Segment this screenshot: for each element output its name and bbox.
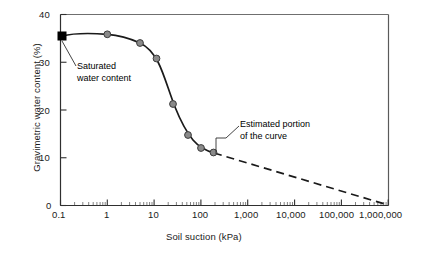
x-tick-label-1: 1 [104,209,109,220]
x-tick-label-100000: 100,000 [319,209,354,220]
estimated-portion-annotation: Estimated portion of the curve [240,119,310,142]
x-tick-label-1000: 1,000 [234,209,258,220]
y-tick-label-0: 0 [46,200,51,211]
chart-figure: 40 30 20 10 0 0.1 1 10 100 1,000 10,000 … [0,0,424,254]
x-tick-label-1000000: 1,000,000 [359,209,402,220]
saturated-water-content-marker [58,32,67,41]
saturated-water-content-annotation: Saturated water content [77,61,131,84]
y-axis-title: Gravimetric water content (%) [31,28,42,188]
x-tick-label-10000: 10,000 [276,209,306,220]
x-axis-title: Soil suction (kPa) [166,231,242,242]
x-tick-label-10: 10 [148,209,159,220]
x-axis-ticks [61,200,389,206]
plot-frame [61,15,389,206]
estimated-annotation-line2: of the curve [240,131,310,143]
estimated-leader-line [216,126,239,154]
x-tick-label-0.1: 0.1 [52,209,66,220]
estimated-annotation-line1: Estimated portion [240,119,310,131]
estimated-curve [214,153,388,205]
saturated-annotation-line2: water content [77,73,131,85]
y-tick-label-40: 40 [39,9,50,20]
data-markers [104,31,217,156]
x-tick-label-100: 100 [192,209,208,220]
saturated-annotation-line1: Saturated [77,61,131,73]
